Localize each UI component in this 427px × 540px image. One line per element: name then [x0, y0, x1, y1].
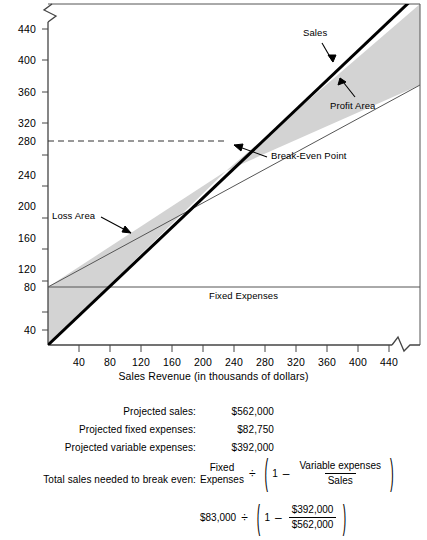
y-tick-label: 360: [6, 86, 36, 98]
annotation-loss-area: Loss Area: [52, 210, 95, 221]
break-even-formula-row-numeric: $83,000 ÷ ( 1 – $392,000 $562,000 ): [0, 504, 427, 540]
break-even-formula: Fixed Expenses ÷ ( 1 – Variable expenses…: [200, 460, 398, 487]
paren-close: ): [390, 455, 394, 491]
paren-open: (: [265, 455, 269, 491]
fact-value: $392,000: [198, 442, 274, 453]
x-tick-label: 120: [126, 356, 156, 368]
fixed-expenses-term: Fixed Expenses: [200, 462, 244, 486]
fact-value: $82,750: [198, 424, 274, 435]
y-tick-marks: [42, 29, 48, 330]
fraction-numerator: Variable expenses: [296, 460, 384, 473]
x-tick-label: 40: [64, 356, 94, 368]
x-axis-title: Sales Revenue (in thousands of dollars): [0, 370, 427, 382]
minus-operator: –: [275, 511, 282, 525]
one-term: 1: [264, 512, 270, 523]
y-tick-label: 120: [6, 263, 36, 275]
x-tick-label: 80: [95, 356, 125, 368]
x-tick-label: 440: [374, 356, 404, 368]
fact-value: $562,000: [198, 406, 274, 417]
y-tick-label: 440: [6, 23, 36, 35]
projection-summary: Projected sales: $562,000 Projected fixe…: [0, 406, 427, 540]
formula-inner: 1 – Variable expenses Sales: [272, 460, 386, 487]
y-tick-label: 40: [6, 324, 36, 336]
y-axis-break-icon: [44, 4, 56, 22]
x-tick-label: 160: [157, 356, 187, 368]
y-tick-label: 200: [6, 200, 36, 212]
y-tick-label: 80: [6, 281, 36, 293]
annotation-sales: Sales: [303, 27, 327, 38]
fact-label: Projected fixed expenses:: [79, 424, 196, 435]
fact-row: Projected variable expenses: $392,000: [0, 442, 427, 460]
variable-ratio-fraction: $392,000 $562,000: [289, 504, 337, 531]
total-expenses-line: [48, 85, 420, 287]
annotation-arrows: [101, 43, 355, 233]
fraction-numerator: $392,000: [289, 504, 337, 517]
annotation-profit-area: Profit Area: [330, 100, 375, 111]
y-tick-label: 280: [6, 135, 36, 147]
fact-label: Projected variable expenses:: [65, 442, 196, 453]
paren-open: (: [257, 504, 261, 536]
fact-label: Projected sales:: [123, 406, 196, 417]
annotation-fixed-expenses: Fixed Expenses: [209, 290, 278, 301]
break-even-chart: 440 400 360 320 280 240 200 160 120 80 4…: [0, 0, 427, 400]
minus-operator: –: [283, 467, 290, 481]
x-tick-label: 280: [250, 356, 280, 368]
divide-operator: ÷: [241, 511, 248, 525]
divide-operator: ÷: [249, 467, 256, 481]
x-tick-marks: [79, 345, 389, 352]
x-axis-break-icon: [392, 337, 420, 351]
fraction-denominator: $562,000: [289, 517, 337, 531]
variable-ratio-fraction: Variable expenses Sales: [296, 460, 384, 487]
fact-row: Projected fixed expenses: $82,750: [0, 424, 427, 442]
fixed-expenses-value: $83,000: [200, 512, 236, 523]
chart-canvas: [0, 0, 427, 400]
annotation-break-even-point: Break-Even Point: [271, 150, 347, 161]
fraction-denominator: Sales: [325, 473, 356, 487]
x-tick-label: 200: [188, 356, 218, 368]
break-even-formula-row: Total sales needed to break even: Fixed …: [0, 460, 427, 504]
y-tick-label: 320: [6, 117, 36, 129]
x-tick-label: 240: [219, 356, 249, 368]
break-even-formula-numeric: $83,000 ÷ ( 1 – $392,000 $562,000 ): [200, 504, 350, 531]
y-tick-label: 160: [6, 232, 36, 244]
y-tick-label: 240: [6, 169, 36, 181]
formula-inner: 1 – $392,000 $562,000: [264, 504, 338, 531]
paren-close: ): [342, 504, 346, 536]
formula-label: Total sales needed to break even:: [43, 474, 196, 485]
fixed-expenses-term-line2: Expenses: [200, 474, 244, 486]
x-tick-label: 400: [343, 356, 373, 368]
x-tick-label: 320: [281, 356, 311, 368]
fixed-expenses-term-line1: Fixed: [210, 462, 234, 474]
y-tick-label: 400: [6, 54, 36, 66]
x-tick-label: 360: [312, 356, 342, 368]
fact-row: Projected sales: $562,000: [0, 406, 427, 424]
one-term: 1: [272, 468, 278, 479]
